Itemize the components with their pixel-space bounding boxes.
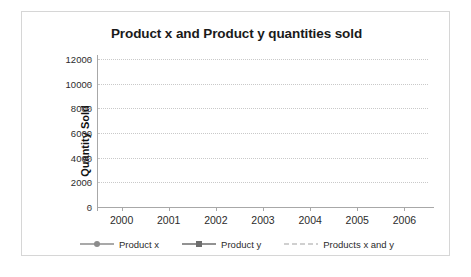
x-axis-tick-mark xyxy=(310,207,311,211)
x-axis-tick-label: 2000 xyxy=(96,214,148,226)
legend-swatch-icon xyxy=(283,239,319,249)
x-axis-tick-marks xyxy=(98,207,434,212)
y-axis-tick-mark xyxy=(88,207,92,208)
chart-frame: Product x and Product y quantities sold … xyxy=(21,11,450,256)
legend-item-product-y[interactable]: Product y xyxy=(181,239,261,250)
chart-legend: Product xProduct yProducts x and y xyxy=(22,234,451,254)
x-axis-tick-mark xyxy=(169,207,170,211)
x-axis-tick-label: 2004 xyxy=(284,214,336,226)
legend-label: Product y xyxy=(221,239,261,250)
x-axis-tick-label: 2001 xyxy=(143,214,195,226)
gridline xyxy=(98,133,428,134)
y-axis-tick-label: 0 xyxy=(46,202,92,213)
y-axis-tick-mark xyxy=(88,84,92,85)
x-axis-tick-label: 2002 xyxy=(190,214,242,226)
chart-title: Product x and Product y quantities sold xyxy=(22,26,451,41)
y-axis-tick-mark xyxy=(88,182,92,183)
y-axis-tick-label: 2000 xyxy=(46,177,92,188)
legend-swatch-icon xyxy=(79,239,115,249)
y-axis-tick-label: 4000 xyxy=(46,152,92,163)
gridline xyxy=(98,59,428,60)
gridline xyxy=(98,108,428,109)
y-axis-tick-label: 8000 xyxy=(46,103,92,114)
y-axis-tick-label: 10000 xyxy=(46,78,92,89)
legend-label: Products x and y xyxy=(323,239,394,250)
y-axis-tick-mark xyxy=(88,133,92,134)
y-axis-tick-labels: 020004000600080001000012000 xyxy=(44,59,92,207)
x-axis-tick-mark xyxy=(263,207,264,211)
y-axis-tick-mark xyxy=(88,108,92,109)
x-axis-tick-mark xyxy=(357,207,358,211)
y-axis-tick-mark xyxy=(88,158,92,159)
gridline xyxy=(98,182,428,183)
legend-item-product-x[interactable]: Product x xyxy=(79,239,159,250)
x-axis-tick-mark xyxy=(122,207,123,211)
gridline xyxy=(98,84,428,85)
legend-swatch-icon xyxy=(181,239,217,249)
y-axis-tick-label: 6000 xyxy=(46,128,92,139)
y-axis-tick-mark xyxy=(88,59,92,60)
plot-area xyxy=(98,59,428,207)
legend-item-products-x-and-y[interactable]: Products x and y xyxy=(283,239,394,250)
y-axis-line xyxy=(97,55,98,211)
x-axis-tick-mark xyxy=(216,207,217,211)
y-axis-tick-label: 12000 xyxy=(46,54,92,65)
legend-label: Product x xyxy=(119,239,159,250)
x-axis-tick-label: 2005 xyxy=(331,214,383,226)
x-axis-tick-labels: 2000200120022003200420052006 xyxy=(78,214,448,230)
gridline xyxy=(98,158,428,159)
x-axis-tick-label: 2003 xyxy=(237,214,289,226)
x-axis-tick-mark xyxy=(404,207,405,211)
x-axis-tick-label: 2006 xyxy=(378,214,430,226)
